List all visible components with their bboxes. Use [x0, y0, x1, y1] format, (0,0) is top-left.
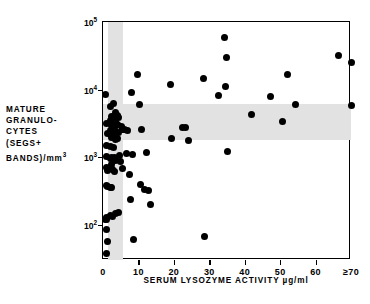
x-axis-tick: [174, 260, 175, 265]
data-point: [104, 238, 111, 245]
y-axis-label-line-3: CYTES: [6, 126, 98, 137]
data-point: [134, 71, 141, 78]
data-point: [279, 118, 286, 125]
y-axis-tick-label-exponent: 3: [93, 151, 97, 158]
data-point: [103, 250, 110, 257]
data-point: [130, 236, 137, 243]
data-point: [143, 149, 150, 156]
data-point: [201, 233, 208, 240]
data-point: [185, 137, 192, 144]
y-axis-tick-label-base: 10: [84, 153, 94, 163]
x-axis-tick: [209, 260, 210, 265]
data-point: [284, 71, 291, 78]
data-point: [127, 196, 134, 203]
data-point: [119, 165, 126, 172]
y-axis-tick-label: 105: [84, 16, 97, 28]
data-point: [222, 83, 229, 90]
data-point: [115, 209, 122, 216]
data-point: [224, 148, 231, 155]
y-axis-label-exponent: 3: [63, 151, 67, 158]
data-point: [126, 171, 133, 178]
normal-granulocyte-range-band: [103, 104, 351, 140]
data-point: [167, 81, 174, 88]
y-axis-tick-label-base: 10: [84, 221, 94, 231]
data-point: [292, 101, 299, 108]
data-point: [348, 59, 355, 66]
data-point: [124, 127, 131, 134]
y-axis-tick: [98, 90, 103, 91]
y-axis-tick-label: 102: [84, 219, 97, 231]
data-point: [138, 126, 145, 133]
data-point: [168, 135, 175, 142]
data-point: [215, 92, 222, 99]
data-point: [335, 52, 342, 59]
y-axis-tick-label-exponent: 4: [93, 84, 97, 91]
x-axis-label: SERUM LYSOZYME ACTIVITY µg/ml: [102, 276, 350, 285]
data-point: [223, 54, 230, 61]
data-point: [114, 135, 121, 142]
y-axis-tick-label-exponent: 5: [93, 16, 97, 23]
data-point: [147, 201, 154, 208]
x-axis-tick: [280, 260, 281, 265]
plot-inner: 0102030405060≥70 102103104105: [103, 22, 349, 258]
y-axis-tick: [98, 157, 103, 158]
y-axis-tick: [98, 225, 103, 226]
data-point: [136, 101, 143, 108]
y-axis-label-line-1: MATURE: [6, 104, 98, 115]
y-axis-label-line-4: (SEGS+: [6, 138, 98, 149]
data-point: [145, 187, 152, 194]
data-point: [129, 151, 136, 158]
data-point: [103, 226, 110, 233]
y-axis-label-line-5-text: BANDS)/mm: [6, 154, 63, 163]
y-axis-label-line-2: GRANULO-: [6, 115, 98, 126]
x-axis-tick: [316, 260, 317, 265]
data-point: [111, 168, 118, 175]
y-axis-tick-label-base: 10: [84, 85, 94, 95]
data-point: [200, 75, 207, 82]
x-axis-tick: [245, 260, 246, 265]
data-point: [348, 102, 355, 109]
data-point: [117, 158, 124, 165]
chart-figure: MATURE GRANULO- CYTES (SEGS+ BANDS)/mm3 …: [0, 0, 370, 304]
data-point: [267, 93, 274, 100]
data-point: [221, 34, 228, 41]
y-axis-tick-label-base: 10: [84, 18, 94, 28]
y-axis-tick-label-exponent: 2: [93, 219, 97, 226]
plot-area: 0102030405060≥70 102103104105: [102, 21, 350, 259]
data-point: [128, 89, 135, 96]
x-axis-tick: [138, 260, 139, 265]
y-axis-tick-label: 103: [84, 151, 97, 163]
y-axis-tick-label: 104: [84, 84, 97, 96]
